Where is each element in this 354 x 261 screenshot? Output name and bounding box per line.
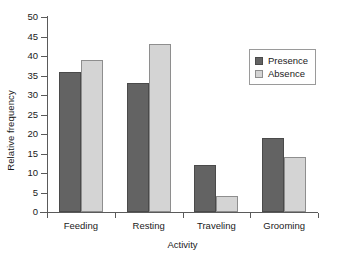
legend-label-absence: Absence: [268, 68, 305, 79]
legend-label-presence: Presence: [268, 55, 308, 66]
y-axis-tick-label: 25: [16, 110, 38, 120]
x-axis-tick: [318, 213, 319, 218]
y-axis-tick-label: 5: [16, 188, 38, 198]
x-axis-title-label: Activity: [167, 239, 197, 250]
legend-swatch-presence-icon: [255, 57, 263, 65]
x-axis-tick: [47, 213, 48, 218]
bar-resting-presence: [127, 83, 149, 212]
y-axis-tick-label: 35: [16, 71, 38, 81]
plot-area: [47, 17, 318, 212]
x-axis-line: [40, 212, 318, 213]
y-axis-title-label: Relative frequency: [5, 90, 16, 170]
y-axis-tick-label: 10: [16, 168, 38, 178]
y-axis-tick-label: 30: [16, 90, 38, 100]
bar-chart: Relative frequency 05101520253035404550 …: [0, 0, 354, 261]
legend-item-presence: Presence: [255, 54, 308, 67]
x-axis-tick: [183, 213, 184, 218]
bar-feeding-absence: [81, 60, 103, 212]
chart-legend: Presence Absence: [249, 49, 316, 85]
y-axis-tick-label: 50: [16, 12, 38, 22]
bar-traveling-absence: [216, 196, 238, 212]
bar-grooming-presence: [262, 138, 284, 212]
y-axis-tick-label: 20: [16, 129, 38, 139]
x-axis-tick: [250, 213, 251, 218]
bar-traveling-presence: [194, 165, 216, 212]
legend-item-absence: Absence: [255, 67, 308, 80]
x-axis-label-grooming: Grooming: [239, 220, 329, 231]
bar-feeding-presence: [59, 72, 81, 212]
y-axis-tick-label: 15: [16, 149, 38, 159]
x-axis-title: Activity: [47, 239, 318, 250]
y-axis-tick-label: 45: [16, 32, 38, 42]
bar-resting-absence: [149, 44, 171, 212]
x-axis-tick: [115, 213, 116, 218]
legend-swatch-absence-icon: [255, 70, 263, 78]
y-axis-tick-label: 0: [16, 207, 38, 217]
y-axis-tick-label: 40: [16, 51, 38, 61]
bar-grooming-absence: [284, 157, 306, 212]
